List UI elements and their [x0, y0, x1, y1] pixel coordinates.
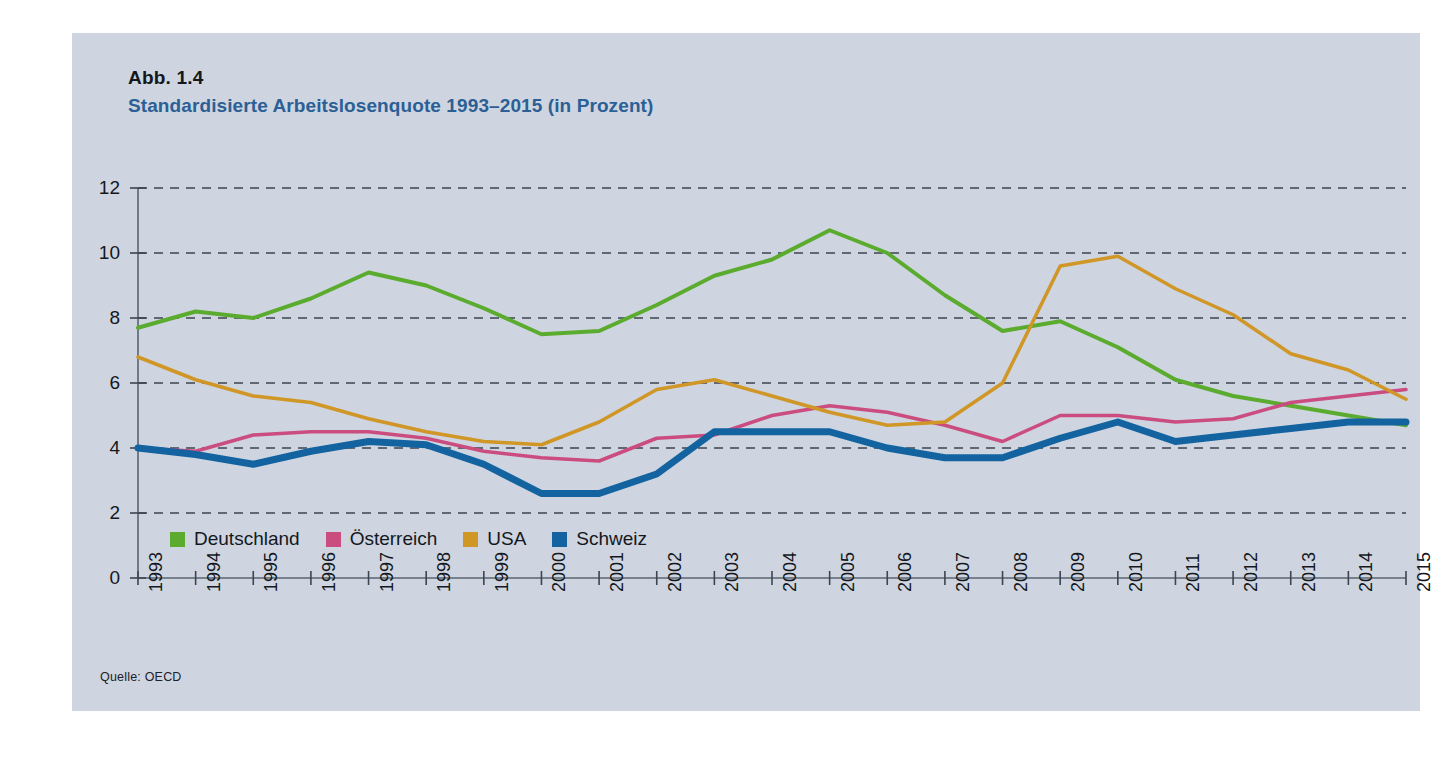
axis-ticks [130, 188, 1406, 585]
legend-item[interactable]: USA [463, 528, 526, 550]
y-axis-label: 4 [86, 437, 120, 459]
x-axis-label: 1993 [146, 552, 167, 592]
chart-legend: DeutschlandÖsterreichUSASchweiz [170, 528, 673, 550]
x-axis-label: 2013 [1299, 552, 1320, 592]
legend-label: USA [487, 528, 526, 550]
figure-root: Abb. 1.4 Standardisierte Arbeitslosenquo… [0, 0, 1450, 767]
y-axis-label: 8 [86, 307, 120, 329]
x-axis-label: 2010 [1126, 552, 1147, 592]
x-axis-label: 1998 [434, 552, 455, 592]
series-lines [138, 230, 1406, 493]
legend-label: Schweiz [576, 528, 647, 550]
x-axis-label: 2009 [1068, 552, 1089, 592]
legend-label: Deutschland [194, 528, 300, 550]
x-axis-label: 2007 [953, 552, 974, 592]
y-axis-label: 6 [86, 372, 120, 394]
x-axis-label: 1995 [261, 552, 282, 592]
x-axis-label: 2002 [665, 552, 686, 592]
x-axis-label: 2011 [1183, 553, 1204, 592]
gridlines [138, 188, 1406, 513]
x-axis-label: 2012 [1241, 552, 1262, 592]
x-axis-label: 2006 [895, 552, 916, 592]
x-axis-label: 2001 [607, 552, 628, 592]
legend-item[interactable]: Schweiz [552, 528, 647, 550]
y-axis-label: 12 [86, 177, 120, 199]
x-axis-label: 2003 [722, 552, 743, 592]
chart-panel: Abb. 1.4 Standardisierte Arbeitslosenquo… [72, 33, 1420, 711]
y-axis-label: 10 [86, 242, 120, 264]
legend-swatch-icon [552, 532, 567, 547]
x-axis-label: 1996 [319, 552, 340, 592]
x-axis-label: 1997 [377, 552, 398, 592]
x-axis-label: 2014 [1356, 552, 1377, 592]
legend-label: Österreich [350, 528, 438, 550]
legend-item[interactable]: Österreich [326, 528, 438, 550]
legend-item[interactable]: Deutschland [170, 528, 300, 550]
x-axis-label: 2004 [780, 552, 801, 592]
x-axis-label: 2005 [838, 552, 859, 592]
x-axis-label: 1999 [492, 552, 513, 592]
x-axis-label: 2008 [1011, 552, 1032, 592]
x-axis-label: 2015 [1414, 552, 1435, 592]
chart-canvas [72, 33, 1420, 711]
line-chart [72, 33, 1420, 711]
legend-swatch-icon [463, 532, 478, 547]
source-note: Quelle: OECD [100, 670, 182, 684]
legend-swatch-icon [326, 532, 341, 547]
x-axis-label: 2000 [549, 552, 570, 592]
y-axis-label: 2 [86, 502, 120, 524]
legend-swatch-icon [170, 532, 185, 547]
y-axis-label: 0 [86, 567, 120, 589]
x-axis-label: 1994 [204, 552, 225, 592]
